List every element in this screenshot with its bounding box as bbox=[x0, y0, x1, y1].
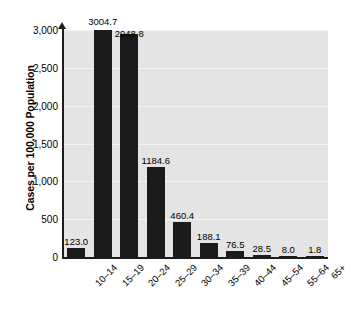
bar-chart: Cases per 100,000 Population 05001,0001,… bbox=[0, 0, 354, 310]
x-axis-tick-label: 15–19 bbox=[119, 262, 145, 288]
bar-value-label: 2948.8 bbox=[115, 28, 144, 39]
bar bbox=[94, 30, 112, 257]
bar bbox=[200, 243, 218, 257]
y-axis-ticks: 05001,0001,5002,0002,5003,000 bbox=[0, 0, 58, 310]
x-axis-tick-label: 45–54 bbox=[278, 262, 304, 288]
bar bbox=[147, 167, 165, 257]
bar bbox=[173, 222, 191, 257]
bar-value-label: 123.0 bbox=[64, 236, 88, 247]
bar-value-label: 8.0 bbox=[282, 244, 295, 255]
y-axis-tick-label: 2,500 bbox=[0, 62, 58, 73]
y-axis-tick-label: 3,000 bbox=[0, 25, 58, 36]
x-axis-tick-label: 30–34 bbox=[199, 262, 225, 288]
x-axis-tick-label: 55–64 bbox=[305, 262, 331, 288]
bar bbox=[226, 251, 244, 257]
y-axis-arrow-icon bbox=[58, 22, 66, 29]
y-axis-tick-label: 2,000 bbox=[0, 100, 58, 111]
x-axis-tick-label: 35–39 bbox=[225, 262, 251, 288]
bar bbox=[306, 256, 324, 257]
y-axis-tick-label: 1,500 bbox=[0, 138, 58, 149]
x-axis-tick-label: 10–14 bbox=[93, 262, 119, 288]
bar-value-label: 1.8 bbox=[308, 244, 321, 255]
bar bbox=[253, 255, 271, 257]
y-axis-line bbox=[62, 26, 64, 258]
x-axis-tick-label: 25–29 bbox=[172, 262, 198, 288]
bar bbox=[120, 34, 138, 257]
x-axis-tick-label: 65+ bbox=[328, 262, 347, 281]
bar-value-label: 1184.6 bbox=[142, 155, 170, 166]
bar-value-label: 188.1 bbox=[197, 231, 221, 242]
bar bbox=[279, 256, 297, 257]
y-axis-tick-label: 0 bbox=[0, 252, 58, 263]
x-axis-tick-label: 40–44 bbox=[252, 262, 278, 288]
y-axis-tick-label: 500 bbox=[0, 214, 58, 225]
bar-value-label: 3004.7 bbox=[88, 16, 117, 27]
y-axis-tick-label: 1,000 bbox=[0, 176, 58, 187]
bar-value-label: 460.4 bbox=[170, 210, 194, 221]
bar bbox=[67, 248, 85, 257]
bar-value-label: 28.5 bbox=[253, 243, 272, 254]
bar-value-label: 76.5 bbox=[226, 239, 245, 250]
x-axis-tick-label: 20–24 bbox=[146, 262, 172, 288]
